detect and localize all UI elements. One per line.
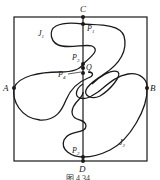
label-q: Q [86,63,92,72]
point-b [145,86,149,90]
p4-leader-line [68,72,81,74]
point-q [81,66,85,70]
point-p2 [81,155,85,159]
label-j1: J1 [38,29,44,39]
curve-j1 [14,23,125,98]
jordan-curve-figure: C D A B Q P1 P3 P4 P2 J1 J2 图 4.34 [0,0,160,180]
label-c: C [80,4,87,14]
label-p1: P1 [86,24,94,34]
point-p1 [81,22,85,26]
point-d [81,159,85,163]
point-p4 [81,71,85,75]
label-p2: P2 [71,146,80,156]
label-b: B [150,83,156,93]
label-p3: P3 [71,53,80,63]
label-a: A [2,83,9,93]
point-c [81,15,85,19]
curve-j1-lower [14,72,93,120]
point-a [12,86,16,90]
figure-caption: 图 4.34 [66,174,90,180]
point-p3 [81,62,85,66]
bounding-rectangle [14,17,147,161]
label-d: D [78,164,86,174]
